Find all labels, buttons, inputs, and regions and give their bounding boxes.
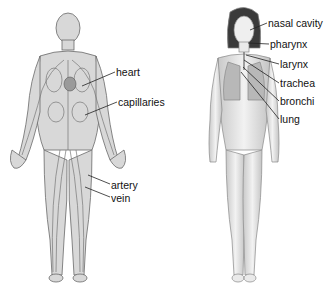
label-capillaries: capillaries [118, 96, 165, 108]
label-nasal-cavity: nasal cavity [268, 17, 323, 29]
heart-icon [64, 77, 76, 91]
label-pharynx: pharynx [270, 38, 307, 50]
label-larynx: larynx [280, 58, 308, 70]
label-bronchi: bronchi [280, 95, 314, 107]
label-lung: lung [280, 113, 300, 125]
diagram-stage: heart capillaries artery vein nasal cavi… [0, 0, 326, 286]
respiratory-figure [209, 7, 279, 282]
label-heart: heart [116, 66, 140, 78]
label-trachea: trachea [280, 77, 315, 89]
label-artery: artery [111, 179, 138, 191]
label-vein: vein [111, 192, 130, 204]
